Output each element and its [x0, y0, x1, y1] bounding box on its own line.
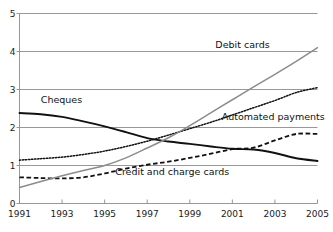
x-tick-label-2001: 2001 — [217, 209, 247, 219]
y-tick-label-0: 0 — [4, 199, 16, 209]
series-label-debit-cards: Debit cards — [215, 39, 269, 50]
series-label-automated-payments: Automated payments — [222, 111, 325, 122]
series-label-cheques: Cheques — [41, 94, 82, 105]
gridlines — [20, 14, 318, 166]
x-tick-label-1999: 1999 — [175, 209, 205, 219]
y-tick-label-1: 1 — [4, 161, 16, 171]
x-tick-label-1991: 1991 — [5, 209, 35, 219]
y-tick-label-2: 2 — [4, 123, 16, 133]
x-tick-label-1995: 1995 — [90, 209, 120, 219]
line-chart: 012345 19911993199519971999200120032005 … — [0, 0, 333, 232]
x-tick-label-2003: 2003 — [260, 209, 290, 219]
x-tick-label-2005: 2005 — [303, 209, 333, 219]
x-tick-label-1997: 1997 — [132, 209, 162, 219]
y-tick-label-4: 4 — [4, 47, 16, 57]
y-tick-label-3: 3 — [4, 85, 16, 95]
y-tick-label-5: 5 — [4, 9, 16, 19]
x-tick-label-1993: 1993 — [47, 209, 77, 219]
series-label-credit-and-charge-cards: Credit and charge cards — [115, 166, 229, 177]
